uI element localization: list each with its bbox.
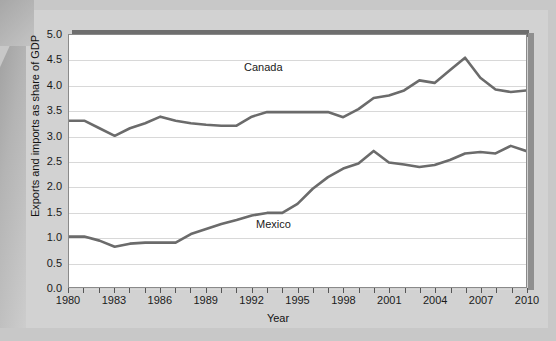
x-tick	[298, 288, 299, 293]
x-tick	[389, 288, 390, 293]
x-tick	[160, 288, 161, 293]
y-tick-label: 3.5	[28, 104, 62, 116]
page-background: Exports and imports as share of GDP 5.04…	[0, 0, 556, 341]
series-label-mexico: Mexico	[256, 218, 291, 230]
x-tick	[435, 288, 436, 293]
x-tick	[496, 288, 497, 293]
x-tick	[68, 288, 69, 293]
x-tick-label: 2001	[377, 294, 401, 306]
x-tick	[99, 288, 100, 293]
y-tick-label: 4.5	[28, 53, 62, 65]
x-tick-label: 2010	[515, 294, 539, 306]
y-tick-label: 0.0	[28, 282, 62, 294]
x-tick	[405, 288, 406, 293]
series-line-canada	[69, 58, 526, 136]
x-tick	[481, 288, 482, 293]
y-tick-label: 0.5	[28, 257, 62, 269]
x-tick	[267, 288, 268, 293]
x-tick	[129, 288, 130, 293]
y-tick-label: 3.0	[28, 130, 62, 142]
x-tick	[328, 288, 329, 293]
plot-area	[68, 34, 527, 288]
x-tick-label: 1989	[193, 294, 217, 306]
y-tick-label: 5.0	[28, 28, 62, 40]
x-axis-tick-labels: 1980198319861989199219951998200120042007…	[0, 294, 556, 308]
series-label-canada: Canada	[244, 61, 283, 73]
line-chart-svg	[69, 35, 526, 287]
x-tick	[236, 288, 237, 293]
y-tick-label: 2.0	[28, 180, 62, 192]
x-tick-label: 2007	[469, 294, 493, 306]
y-axis-tick-labels: 5.04.54.03.53.02.52.01.51.00.50.0	[26, 34, 62, 288]
y-tick-label: 4.0	[28, 79, 62, 91]
x-tick	[374, 288, 375, 293]
x-tick-label: 1992	[239, 294, 263, 306]
y-tick-label: 1.5	[28, 206, 62, 218]
x-tick-label: 1986	[148, 294, 172, 306]
x-tick-label: 2004	[423, 294, 447, 306]
x-tick	[527, 288, 528, 293]
x-tick	[206, 288, 207, 293]
series-line-mexico	[69, 146, 526, 247]
x-tick	[343, 288, 344, 293]
x-tick	[359, 288, 360, 293]
x-axis-title: Year	[0, 312, 556, 324]
x-tick-label: 1998	[331, 294, 355, 306]
x-tick-label: 1980	[56, 294, 80, 306]
x-tick	[252, 288, 253, 293]
x-tick	[451, 288, 452, 293]
x-tick	[221, 288, 222, 293]
x-tick	[420, 288, 421, 293]
y-tick-label: 1.0	[28, 231, 62, 243]
y-tick-label: 2.5	[28, 155, 62, 167]
x-tick	[466, 288, 467, 293]
x-tick	[313, 288, 314, 293]
x-tick	[175, 288, 176, 293]
plot-right-shadow-bar	[528, 33, 534, 290]
x-tick-label: 1995	[285, 294, 309, 306]
x-tick	[145, 288, 146, 293]
x-tick-label: 1983	[102, 294, 126, 306]
x-tick	[83, 288, 84, 293]
x-tick	[512, 288, 513, 293]
x-tick	[282, 288, 283, 293]
x-tick	[190, 288, 191, 293]
x-tick	[114, 288, 115, 293]
